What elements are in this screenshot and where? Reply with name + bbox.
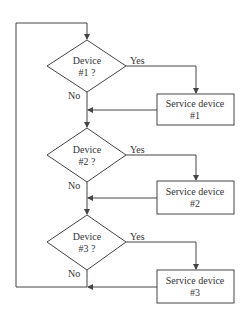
flowchart: Device #1 ? Device #2 ? Device #3 ? Serv… (0, 0, 249, 323)
decision-2-label: Device (73, 144, 102, 155)
process-2-label: Service device (166, 186, 225, 197)
process-3-label-2: #3 (190, 287, 200, 298)
yes-label-2: Yes (130, 144, 145, 155)
no-label-3: No (68, 268, 80, 279)
decision-1-diamond (47, 40, 126, 92)
decision-3-label: Device (73, 231, 102, 242)
process-3-label: Service device (166, 275, 225, 286)
no-label-1: No (68, 90, 80, 101)
decision-3-label-2: #3 ? (79, 243, 97, 254)
process-2-label-2: #2 (190, 198, 200, 209)
yes-connector-3 (126, 242, 196, 269)
yes-label-3: Yes (130, 231, 145, 242)
process-1-label-2: #1 (190, 110, 200, 121)
decision-2-diamond (47, 128, 126, 182)
yes-label-1: Yes (130, 55, 145, 66)
yes-connector-1 (126, 66, 196, 93)
decision-1-label: Device (73, 55, 102, 66)
yes-connector-2 (126, 155, 196, 180)
decision-1-label-2: #1 ? (79, 67, 97, 78)
decision-2-label-2: #2 ? (79, 156, 97, 167)
no-label-2: No (68, 180, 80, 191)
process-1-label: Service device (166, 98, 225, 109)
